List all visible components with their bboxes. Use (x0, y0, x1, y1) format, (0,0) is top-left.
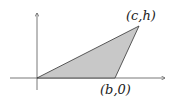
triangle-diagram: (c,h) (b,0) (0, 0, 172, 103)
base-label: (b,0) (100, 82, 131, 97)
apex-label: (c,h) (126, 8, 156, 23)
triangle (37, 26, 139, 78)
